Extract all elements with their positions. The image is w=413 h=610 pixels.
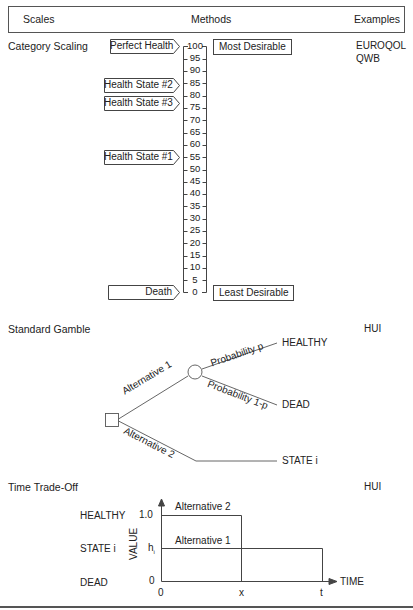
tto-y-tick-0: 0 <box>149 575 155 586</box>
state-health-state-2: Health State #2 <box>104 79 172 90</box>
scale-tick: 65 <box>183 126 207 137</box>
tto-row-state-i: STATE i <box>80 543 116 554</box>
tto-alternative-2: Alternative 2 <box>175 501 231 512</box>
state-health-state-1: Health State #1 <box>104 151 172 162</box>
tto-row-healthy: HEALTHY <box>80 510 125 521</box>
state-death: Death <box>108 286 172 297</box>
example-hui-sg: HUI <box>364 323 381 334</box>
state-health-state-3: Health State #3 <box>104 97 172 108</box>
tto-y-tick-hi: hi <box>148 542 155 555</box>
standard-gamble-title: Standard Gamble <box>8 323 90 335</box>
scale-tick: 55 <box>183 151 207 162</box>
tto-row-dead: DEAD <box>80 577 108 588</box>
scale-tick: 85 <box>183 77 207 88</box>
tto-x-axis-label: TIME <box>340 576 364 587</box>
time-tradeoff-title: Time Trade-Off <box>8 481 78 493</box>
bottom-rule <box>0 606 413 608</box>
scale-tick: 75 <box>183 101 207 112</box>
least-desirable-anchor: Least Desirable <box>213 285 294 301</box>
state-perfect-health: Perfect Health <box>110 40 172 51</box>
sg-outcome-healthy: HEALTHY <box>282 337 327 348</box>
sg-outcome-state-i: STATE i <box>282 455 318 466</box>
scale-tick: 35 <box>183 200 207 211</box>
tto-alternative-1: Alternative 1 <box>175 535 231 546</box>
scale-tick: 80 <box>183 89 207 100</box>
scale-tick: 20 <box>183 237 207 248</box>
tto-y-tick-1: 1.0 <box>139 509 153 520</box>
scale-tick: 100 <box>183 40 207 51</box>
scale-tick: 15 <box>183 249 207 260</box>
scale-tick: 45 <box>183 175 207 186</box>
scale-tick: 25 <box>183 224 207 235</box>
scale-tick: 30 <box>183 212 207 223</box>
scale-tick: 40 <box>183 187 207 198</box>
scale-tick: 60 <box>183 138 207 149</box>
scale-tick: 90 <box>183 64 207 75</box>
scale-tick: 0 <box>183 286 207 297</box>
sg-outcome-dead: DEAD <box>282 399 310 410</box>
tto-x-tick-t: t <box>320 587 323 598</box>
tto-x-tick-0: 0 <box>158 587 164 598</box>
scale-tick: 70 <box>183 114 207 125</box>
tto-x-tick-x: x <box>239 587 244 598</box>
scale-tick: 50 <box>183 163 207 174</box>
example-hui-tto: HUI <box>364 481 381 492</box>
most-desirable-anchor: Most Desirable <box>213 39 292 55</box>
scale-tick: 95 <box>183 52 207 63</box>
tto-y-axis-label: VALUE <box>128 528 139 560</box>
scale-tick: 10 <box>183 261 207 272</box>
tto-y-tick-sub: i <box>154 549 155 555</box>
scale-tick: 5 <box>183 274 207 285</box>
